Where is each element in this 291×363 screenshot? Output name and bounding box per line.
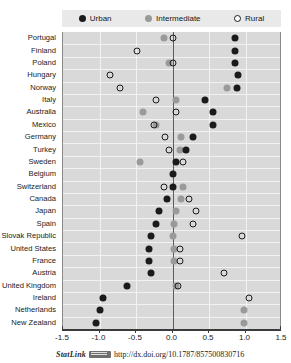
row-separator xyxy=(63,57,280,58)
data-point-rural xyxy=(160,183,167,190)
row-separator xyxy=(63,255,280,256)
data-point-intermediate xyxy=(169,233,176,240)
data-point-urban xyxy=(202,97,209,104)
category-label: France xyxy=(32,257,56,265)
data-point-urban xyxy=(147,270,154,277)
data-point-intermediate xyxy=(136,158,143,165)
data-point-urban xyxy=(231,59,238,66)
data-point-intermediate xyxy=(170,220,177,227)
data-point-rural xyxy=(192,208,199,215)
category-label: United States xyxy=(10,245,56,253)
data-point-urban xyxy=(96,307,103,314)
category-label: Belgium xyxy=(29,171,56,179)
data-point-rural xyxy=(151,121,158,128)
legend-label-intermediate: Intermediate xyxy=(156,15,200,23)
statlink-barcode-icon xyxy=(89,351,111,358)
category-label: Sweden xyxy=(29,158,56,166)
data-point-urban xyxy=(92,319,99,326)
data-point-urban xyxy=(209,109,216,116)
data-point-intermediate xyxy=(241,307,248,314)
category-label: Switzerland xyxy=(17,183,56,191)
data-point-rural xyxy=(180,158,187,165)
category-label: Mexico xyxy=(32,121,56,129)
category-label: Canada xyxy=(29,195,56,203)
legend-item-intermediate: Intermediate xyxy=(145,15,200,23)
data-point-intermediate xyxy=(178,134,185,141)
row-separator xyxy=(63,193,280,194)
data-point-urban xyxy=(153,220,160,227)
category-label: Japan xyxy=(35,208,56,216)
doi-link[interactable]: http://dx.doi.org/10.1787/857500830716 xyxy=(114,350,244,359)
data-point-intermediate xyxy=(173,208,180,215)
source-footer: StatLink http://dx.doi.org/10.1787/85750… xyxy=(56,347,291,361)
row-separator xyxy=(63,304,280,305)
data-point-urban xyxy=(169,171,176,178)
axis-tick-label: 0.0 xyxy=(166,333,177,342)
row-separator xyxy=(63,267,280,268)
axis-tick-label: -0.5 xyxy=(128,333,142,342)
chart-figure: Urban Intermediate Rural PortugalFinland… xyxy=(0,0,291,363)
row-separator xyxy=(63,119,280,120)
data-point-rural xyxy=(176,257,183,264)
row-separator xyxy=(63,280,280,281)
data-point-urban xyxy=(235,72,242,79)
legend-item-urban: Urban xyxy=(79,15,112,23)
data-point-rural xyxy=(169,35,176,42)
row-separator xyxy=(63,106,280,107)
data-point-urban xyxy=(147,233,154,240)
data-point-rural xyxy=(175,282,182,289)
data-point-rural xyxy=(238,233,245,240)
row-separator xyxy=(63,131,280,132)
data-point-urban xyxy=(231,35,238,42)
axis-tick-label: 1.0 xyxy=(239,333,250,342)
axis-tick-label: 1.5 xyxy=(275,333,286,342)
data-point-rural xyxy=(246,295,253,302)
data-point-intermediate xyxy=(224,84,231,91)
axis-tick xyxy=(172,329,173,333)
row-separator xyxy=(63,205,280,206)
category-label: Germany xyxy=(25,133,56,141)
category-label: Finland xyxy=(31,47,56,55)
row-separator xyxy=(63,69,280,70)
data-point-rural xyxy=(153,97,160,104)
data-point-rural xyxy=(169,59,176,66)
legend-label-rural: Rural xyxy=(245,15,264,23)
data-point-urban xyxy=(189,134,196,141)
row-separator xyxy=(63,242,280,243)
data-point-rural xyxy=(165,146,172,153)
data-point-rural xyxy=(220,270,227,277)
category-label: Hungary xyxy=(27,72,56,80)
category-label: Spain xyxy=(37,220,56,228)
data-point-intermediate xyxy=(173,97,180,104)
data-point-intermediate xyxy=(241,319,248,326)
axis-tick xyxy=(135,329,136,333)
statlink-label: StatLink xyxy=(56,350,86,359)
data-point-rural xyxy=(134,47,141,54)
row-separator xyxy=(63,82,280,83)
data-point-intermediate xyxy=(180,183,187,190)
category-label: United Kingdom xyxy=(2,282,56,290)
row-separator xyxy=(63,317,280,318)
row-separator xyxy=(63,94,280,95)
row-separator xyxy=(63,156,280,157)
data-point-rural xyxy=(176,245,183,252)
data-point-urban xyxy=(209,121,216,128)
category-label: Norway xyxy=(30,84,56,92)
axis-tick-label: -1.0 xyxy=(92,333,106,342)
category-label: Turkey xyxy=(33,146,56,154)
axis-end-cap-right xyxy=(280,326,281,330)
category-label: Poland xyxy=(32,59,56,67)
category-axis-labels: PortugalFinlandPolandHungaryNorwayItalyA… xyxy=(0,32,59,329)
category-label: Slovak Republic xyxy=(2,232,56,240)
data-point-urban xyxy=(163,196,170,203)
filled-gray-circle-icon xyxy=(145,15,152,22)
filled-dark-circle-icon xyxy=(79,15,86,22)
data-point-urban xyxy=(231,47,238,54)
data-point-rural xyxy=(107,72,114,79)
data-point-urban xyxy=(124,282,131,289)
row-separator xyxy=(63,143,280,144)
data-point-rural xyxy=(185,196,192,203)
axis-tick-label: -1.5 xyxy=(55,333,69,342)
open-circle-icon xyxy=(234,15,241,22)
data-point-urban xyxy=(146,257,153,264)
